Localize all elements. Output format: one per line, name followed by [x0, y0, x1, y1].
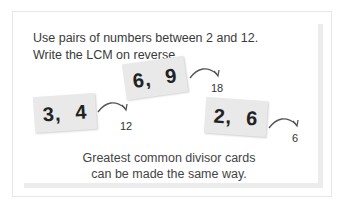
- footer-line-2: can be made the same way.: [0, 166, 338, 182]
- footer-line-1: Greatest common divisor cards: [0, 150, 338, 166]
- panel-shadow-bottom: [24, 183, 323, 188]
- curved-arrow-icon: [267, 112, 301, 134]
- footer-note: Greatest common divisor cards can be mad…: [0, 150, 338, 182]
- card-number-a: 6,: [131, 67, 153, 92]
- lcm-result-3: 6: [292, 132, 298, 144]
- card-3-4: 3, 4: [33, 93, 97, 133]
- card-number-b: 4: [74, 100, 88, 124]
- lcm-result-1: 12: [120, 120, 132, 132]
- card-number-a: 3,: [42, 102, 62, 126]
- card-number-b: 9: [164, 63, 179, 87]
- card-number-a: 2,: [213, 104, 233, 128]
- card-number-b: 6: [245, 106, 259, 130]
- lcm-result-2: 18: [211, 82, 223, 94]
- card-2-6: 2, 6: [204, 97, 268, 137]
- curved-arrow-icon: [96, 96, 130, 118]
- instructions: Use pairs of numbers between 2 and 12. W…: [33, 30, 258, 64]
- instruction-line-1: Use pairs of numbers between 2 and 12.: [33, 30, 258, 47]
- curved-arrow-icon: [188, 62, 222, 84]
